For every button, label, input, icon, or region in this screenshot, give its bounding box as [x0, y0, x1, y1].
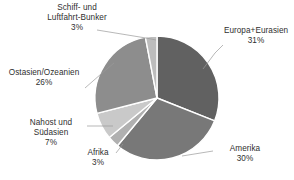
slice-value-text: 30% [214, 154, 276, 164]
slice-label-text-line2: Südasien [16, 128, 86, 138]
slice-value-text: 3% [18, 23, 136, 33]
slice-value-text: 26% [2, 78, 86, 88]
slice-label-text-line2: Luftfahrt-Bunker [18, 13, 136, 23]
leader-line-europa [203, 45, 223, 69]
slice-label-text: Nahost und [16, 118, 86, 128]
slice-label-europa-eurasien: Europa+Eurasien 31% [218, 26, 294, 46]
slice-value-text: 3% [78, 158, 118, 168]
pie-chart: Schiff- und Luftfahrt-Bunker 3% Ostasien… [0, 0, 294, 180]
slice-label-text: Schiff- und [18, 3, 136, 13]
slice-label-text: Europa+Eurasien [218, 26, 294, 36]
slice-label-text: Ostasien/Ozeanien [2, 68, 86, 78]
slice-value-text: 31% [218, 36, 294, 46]
slice-label-ostasien-ozeanien: Ostasien/Ozeanien 26% [2, 68, 86, 88]
slice-label-nahost-und-suedasien: Nahost und Südasien 7% [16, 118, 86, 149]
slice-value-text: 7% [16, 138, 86, 148]
slice-label-amerika: Amerika 30% [214, 144, 276, 164]
slice-label-schiff-und-luftfahrt-bunker: Schiff- und Luftfahrt-Bunker 3% [18, 3, 136, 34]
pie-slice-group [95, 36, 219, 160]
slice-label-text: Amerika [214, 144, 276, 154]
slice-label-text: Afrika [78, 148, 118, 158]
slice-label-afrika: Afrika 3% [78, 148, 118, 168]
